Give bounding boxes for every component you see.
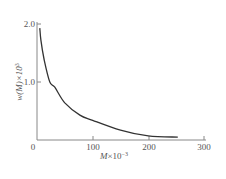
- x-tick-label-200: 200: [142, 142, 156, 152]
- x-tick-label-300: 300: [197, 142, 211, 152]
- y-tick-label-1: 1.0: [24, 77, 36, 87]
- origin-label: 0: [31, 142, 36, 152]
- x-tick-label-100: 100: [86, 142, 100, 152]
- chart: 2.0 1.0 0 100 200 300 M×10−3 w(M)×103: [0, 0, 226, 179]
- x-axis-label: M×10−3: [99, 151, 128, 161]
- distribution-curve: [40, 28, 178, 137]
- y-axis-label: w(M)×103: [14, 63, 24, 101]
- y-tick-label-2: 2.0: [24, 19, 36, 29]
